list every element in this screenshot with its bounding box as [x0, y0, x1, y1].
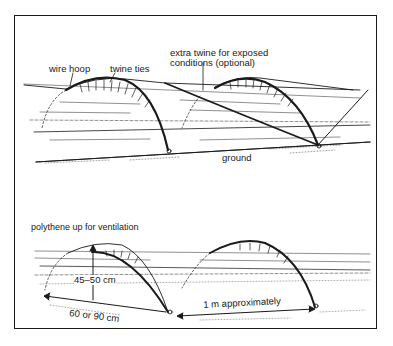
label-extra-twine-line2: conditions (optional): [170, 58, 255, 68]
label-ventilation: polythene up for ventilation: [31, 222, 139, 232]
label-height: 45–50 cm: [74, 275, 116, 285]
label-wire-hoop: wire hoop: [49, 64, 90, 74]
label-ground: ground: [222, 153, 252, 163]
top-panel-drawing: [24, 63, 370, 163]
label-twine-ties: twine ties: [110, 64, 150, 74]
